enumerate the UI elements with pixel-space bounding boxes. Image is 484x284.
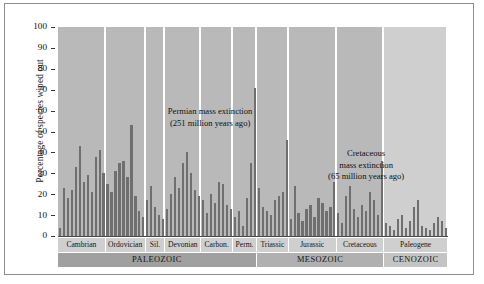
extinction-bar: [214, 203, 216, 236]
extinction-bar: [218, 182, 220, 236]
extinction-bar: [238, 211, 240, 236]
extinction-bar: [389, 226, 391, 236]
annotation-line: mass extinction: [328, 160, 404, 171]
extinction-bar: [222, 184, 224, 236]
extinction-bar: [63, 188, 65, 236]
y-tick-mark: [51, 69, 55, 70]
extinction-bar: [329, 207, 331, 236]
extinction-bar: [270, 215, 272, 236]
period-label: Devonian: [165, 238, 201, 252]
extinction-bar: [417, 200, 419, 236]
extinction-bar: [290, 219, 292, 236]
extinction-bar: [266, 211, 268, 236]
extinction-bar: [301, 221, 303, 236]
extinction-bar: [174, 177, 176, 236]
period-label: Perm.: [233, 238, 257, 252]
extinction-bar: [309, 205, 311, 236]
permian-annotation: Permian mass extinction(251 million year…: [168, 106, 253, 129]
y-tick-label: 90: [13, 43, 47, 52]
period-label: Paleogene: [384, 238, 448, 252]
extinction-bar: [186, 152, 188, 236]
y-tick-mark: [51, 215, 55, 216]
extinction-bar: [262, 207, 264, 236]
extinction-bar: [441, 221, 443, 236]
extinction-bar: [102, 173, 104, 236]
extinction-bar: [130, 125, 132, 236]
extinction-bar: [365, 211, 367, 236]
annotation-line: Cretaceous: [328, 148, 404, 159]
extinction-bar: [126, 177, 128, 236]
extinction-bar: [87, 175, 89, 236]
annotation-line: (65 million years ago): [328, 171, 404, 182]
extinction-bar: [333, 182, 335, 236]
y-tick-mark: [51, 48, 55, 49]
extinction-bar: [138, 211, 140, 236]
extinction-bar: [409, 221, 411, 236]
period-label: Cretaceous: [337, 238, 385, 252]
extinction-bar: [114, 171, 116, 236]
extinction-bar: [146, 200, 148, 236]
extinction-bar: [170, 194, 172, 236]
extinction-bar: [321, 203, 323, 236]
extinction-bar: [230, 209, 232, 236]
extinction-bar: [278, 196, 280, 236]
y-tick-label: 0: [13, 231, 47, 240]
extinction-bar: [158, 215, 160, 236]
y-tick-mark: [51, 111, 55, 112]
extinction-bar: [345, 196, 347, 236]
extinction-bar: [99, 150, 101, 236]
extinction-bar: [349, 186, 351, 236]
extinction-bar: [401, 215, 403, 236]
extinction-bar: [75, 167, 77, 236]
y-tick-label: 20: [13, 190, 47, 199]
extinction-bar: [150, 186, 152, 236]
extinction-bar: [67, 198, 69, 236]
y-tick-mark: [51, 27, 55, 28]
extinction-bar: [369, 192, 371, 236]
extinction-bar: [95, 157, 97, 236]
extinction-bar: [110, 192, 112, 236]
extinction-bar: [286, 140, 288, 236]
extinction-bar: [337, 213, 339, 236]
extinction-bar: [274, 200, 276, 236]
extinction-bar: [317, 198, 319, 236]
annotation-line: (251 million years ago): [168, 118, 253, 129]
figure-frame: Percentage of species wiped out 10090807…: [4, 3, 474, 275]
extinction-bar: [118, 163, 120, 236]
extinction-bar: [134, 196, 136, 236]
extinction-bar: [71, 190, 73, 236]
extinction-bar: [83, 182, 85, 236]
y-tick-mark: [51, 90, 55, 91]
cretaceous-annotation: Cretaceousmass extinction(65 million yea…: [328, 148, 404, 182]
extinction-bar: [258, 188, 260, 236]
y-tick-label: 100: [13, 22, 47, 31]
y-tick-label: 40: [13, 148, 47, 157]
extinction-bar: [106, 184, 108, 236]
extinction-bar: [413, 207, 415, 236]
x-axis-baseline: [58, 236, 448, 237]
era-label: CENOZOIC: [384, 253, 448, 267]
extinction-bar: [341, 223, 343, 236]
extinction-bar: [202, 200, 204, 236]
extinction-bar: [325, 211, 327, 236]
y-tick-mark: [51, 132, 55, 133]
y-tick-label: 80: [13, 64, 47, 73]
y-tick-mark: [51, 194, 55, 195]
extinction-bar: [182, 163, 184, 236]
y-tick-label: 10: [13, 211, 47, 220]
extinction-bar: [194, 190, 196, 236]
extinction-bar: [166, 209, 168, 236]
extinction-bar: [142, 217, 144, 236]
extinction-bar: [421, 226, 423, 236]
extinction-chart-figure: Percentage of species wiped out 10090807…: [0, 0, 484, 284]
era-axis: PALEOZOICMESOZOICCENOZOIC: [58, 253, 448, 267]
extinction-bar: [250, 163, 252, 236]
y-tick-mark: [51, 152, 55, 153]
extinction-bar: [162, 219, 164, 236]
period-label: Ordovician: [106, 238, 146, 252]
extinction-bar: [445, 228, 447, 236]
period-label: Sil.: [146, 238, 166, 252]
extinction-bar: [79, 146, 81, 236]
extinction-bar: [305, 209, 307, 236]
extinction-bar: [242, 226, 244, 236]
